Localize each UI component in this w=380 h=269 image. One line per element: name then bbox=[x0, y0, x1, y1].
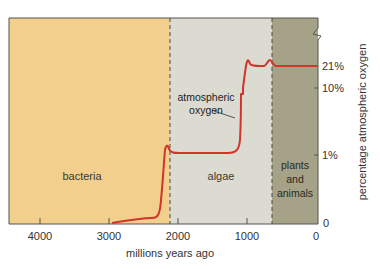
x-axis-label: millions years ago bbox=[126, 247, 214, 259]
label-plants-2: and bbox=[286, 173, 304, 185]
y-tick-label-1: 1% bbox=[322, 149, 338, 161]
x-tick-label-1000: 1000 bbox=[235, 230, 259, 242]
x-tick-label-3000: 3000 bbox=[97, 230, 121, 242]
x-tick-label-0: 0 bbox=[313, 230, 319, 242]
y-tick-label-21: 21% bbox=[322, 60, 344, 72]
region-algae bbox=[170, 18, 272, 224]
y-axis-label: percentage atmospheric oxygen bbox=[356, 44, 368, 201]
oxygen-history-chart: bacteria algae plants and animals atmosp… bbox=[0, 0, 380, 269]
label-plants-3: animals bbox=[277, 187, 313, 199]
y-tick-label-10: 10% bbox=[322, 82, 344, 94]
y-tick-label-0: 0 bbox=[323, 217, 329, 229]
region-bacteria bbox=[9, 18, 170, 224]
annotation-line1: atmospheric bbox=[177, 91, 234, 103]
annotation-line2: oxygen bbox=[189, 104, 223, 116]
label-algae: algae bbox=[208, 170, 235, 182]
x-tick-label-2000: 2000 bbox=[166, 230, 190, 242]
label-bacteria: bacteria bbox=[62, 170, 102, 182]
label-plants-1: plants bbox=[281, 159, 309, 171]
x-tick-label-4000: 4000 bbox=[28, 230, 52, 242]
